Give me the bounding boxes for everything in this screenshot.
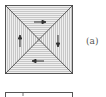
square-diagram xyxy=(5,5,73,74)
next-figure-partial xyxy=(5,92,73,97)
figure-label: (a) xyxy=(86,36,98,46)
